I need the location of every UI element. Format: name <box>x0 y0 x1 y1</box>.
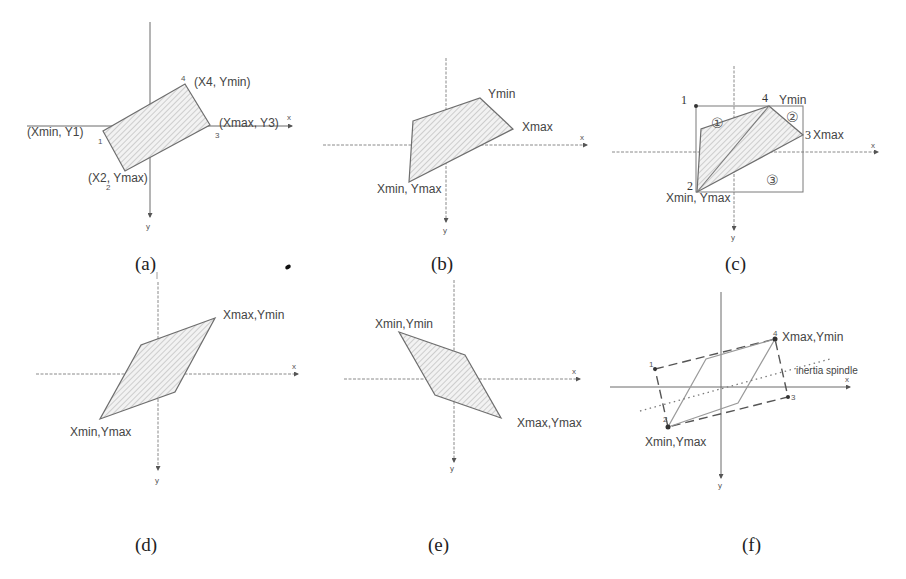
x-axis-label: x <box>287 113 291 122</box>
panel-f: x y 1 2 3 4 Xmax,Ymin Xmin,Ymax inertia … <box>610 292 858 556</box>
label-ymin: Ymin <box>488 87 515 101</box>
label-xmin-ymax: Xmin,Ymax <box>70 425 131 439</box>
y-axis-label: y <box>718 481 722 490</box>
region-1-marker: ① <box>711 115 724 131</box>
corner-point-3 <box>786 395 790 399</box>
caption-d: (d) <box>135 534 157 556</box>
region-2-marker: ② <box>786 109 799 125</box>
caption-c: (c) <box>725 253 746 275</box>
label-xmin-ymax: Xmin,Ymax <box>645 435 706 449</box>
ink-dot <box>284 264 291 270</box>
vertex-number-3: 3 <box>805 128 811 142</box>
vertex-number-2: 2 <box>663 415 668 424</box>
y-axis-label: y <box>731 233 735 242</box>
x-axis-label: x <box>845 375 849 384</box>
parallelogram <box>399 332 501 418</box>
x-axis-label: x <box>572 367 576 376</box>
x-axis-label: x <box>580 133 584 142</box>
corner-point-1 <box>653 367 657 371</box>
label-xmax: Xmax <box>522 120 553 134</box>
label-xmax-ymin: Xmax,Ymin <box>223 308 284 322</box>
label-xmin-ymin: Xmin,Ymin <box>375 317 433 331</box>
caption-e: (e) <box>428 534 449 556</box>
panel-a: x y 4 1 3 2 (X4, Ymin) (Xmin, Y1) (Xmax,… <box>27 22 292 279</box>
panel-d: x y Xmax,Ymin Xmin,Ymax (d) <box>36 282 298 556</box>
caption-a: (a) <box>135 253 156 275</box>
vertex-number-4: 4 <box>181 74 186 83</box>
caption-f: (f) <box>742 534 761 556</box>
label-xmax-ymin: Xmax,Ymin <box>782 330 843 344</box>
bounding-box-figure: x y 4 1 3 2 (X4, Ymin) (Xmin, Y1) (Xmax,… <box>0 0 906 579</box>
label-x2-ymax: (X2, Ymax) <box>88 171 148 185</box>
label-xmax-y3: (Xmax, Y3) <box>219 116 279 130</box>
label-xmax: Xmax <box>813 128 844 142</box>
vertex-number-1: 1 <box>98 137 103 146</box>
panel-b: x y Ymin Xmax Xmin, Ymax (b) <box>323 58 587 275</box>
label-xmin-y1: (Xmin, Y1) <box>27 125 83 139</box>
vertex-number-1: 1 <box>681 93 687 107</box>
panel-c: x y 1 4 2 3 Ymin Xmax Xmin, Ymax ① ② ③ (… <box>612 66 878 275</box>
corner-point-1 <box>694 104 698 108</box>
label-xmin-ymax: Xmin, Ymax <box>666 191 730 205</box>
label-x4-ymin: (X4, Ymin) <box>194 75 250 89</box>
region-3-marker: ③ <box>766 172 779 188</box>
y-axis-label: y <box>450 464 454 473</box>
label-inertia-spindle: inertia spindle <box>796 365 858 376</box>
vertex-number-3: 3 <box>215 131 220 140</box>
vertex-number-3: 3 <box>791 393 796 402</box>
panel-e: x y Xmin,Ymin Xmax,Ymax (e) <box>344 280 582 556</box>
label-xmin-ymax: Xmin, Ymax <box>377 182 441 196</box>
x-axis-label: x <box>292 362 296 371</box>
label-ymin: Ymin <box>779 93 806 107</box>
vertex-number-4: 4 <box>762 91 768 105</box>
y-axis-label: y <box>443 226 447 235</box>
rotated-rectangle <box>103 84 210 171</box>
y-axis-label: y <box>146 222 150 231</box>
vertex-number-1: 1 <box>649 360 654 369</box>
vertex-number-4: 4 <box>773 329 778 338</box>
caption-b: (b) <box>431 253 453 275</box>
y-axis-label: y <box>155 476 159 485</box>
corner-point-2 <box>666 425 671 430</box>
x-axis-label: x <box>871 141 875 150</box>
quadrilateral <box>409 98 513 182</box>
label-xmax-ymax: Xmax,Ymax <box>517 416 582 430</box>
